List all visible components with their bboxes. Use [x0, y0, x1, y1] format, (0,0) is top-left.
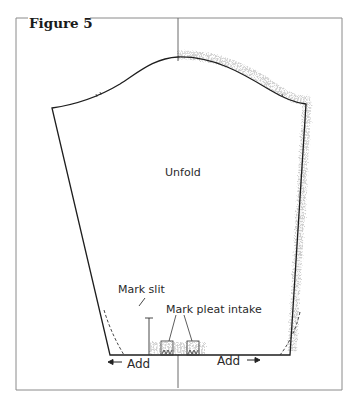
add-right-label: Add [217, 354, 240, 368]
figure-frame [16, 18, 342, 390]
sleeve-pattern-diagram [0, 0, 360, 410]
unfold-label: Unfold [165, 166, 201, 179]
add-left-label: Add [127, 357, 150, 371]
mark-pleat-label: Mark pleat intake [166, 303, 262, 316]
mark-slit-label: Mark slit [118, 283, 165, 296]
